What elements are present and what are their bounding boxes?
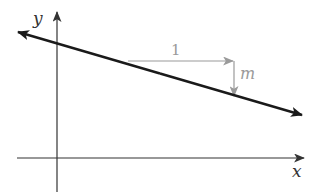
sloped-line: [18, 32, 302, 115]
rise-label: m: [240, 64, 255, 83]
slope-diagram: y x 1 m: [0, 0, 326, 192]
y-axis-label: y: [32, 8, 43, 28]
x-axis-label: x: [292, 161, 302, 181]
run-label: 1: [171, 41, 181, 59]
